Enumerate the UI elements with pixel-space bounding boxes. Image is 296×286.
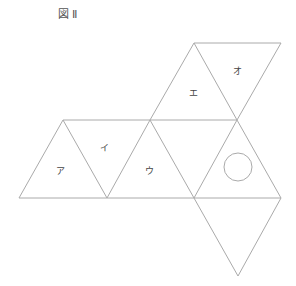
edge xyxy=(107,120,150,198)
edge xyxy=(150,43,194,120)
edge xyxy=(238,198,281,276)
net-diagram xyxy=(0,0,296,286)
face-label-o: オ xyxy=(233,64,242,77)
edge xyxy=(194,43,237,120)
edge xyxy=(150,120,194,198)
edge xyxy=(19,120,63,198)
face-label-a: ア xyxy=(56,164,65,177)
face-label-e: エ xyxy=(189,86,198,99)
edge xyxy=(237,120,281,198)
edge xyxy=(237,43,281,120)
edge xyxy=(194,120,237,198)
edge xyxy=(63,120,107,198)
circle-mark xyxy=(224,153,252,181)
face-label-i: イ xyxy=(100,141,109,154)
face-label-u: ウ xyxy=(145,164,154,177)
edge xyxy=(194,198,238,276)
